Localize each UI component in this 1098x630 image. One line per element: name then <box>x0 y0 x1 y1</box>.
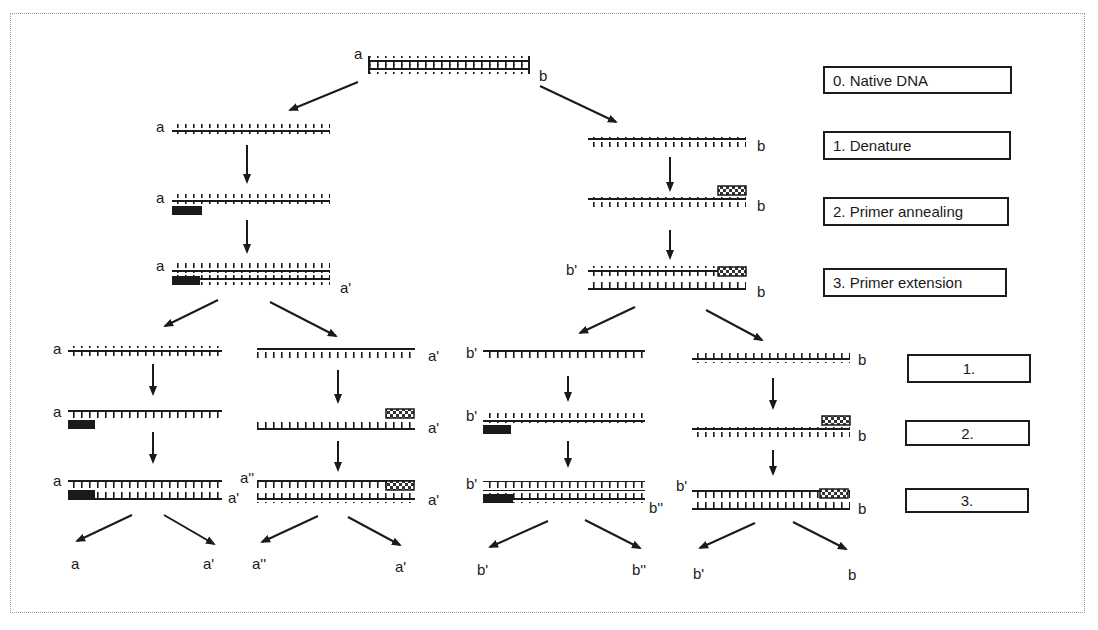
product-label: b <box>848 567 856 582</box>
strand-label: a' <box>428 420 439 435</box>
step-label: 0. Native DNA <box>833 72 928 89</box>
strand-label: a <box>156 190 164 205</box>
step-label: 2. <box>961 425 974 442</box>
strand-label: a <box>53 473 61 488</box>
primer-block <box>718 186 746 195</box>
column-3 <box>483 350 645 503</box>
strand-label: b <box>757 198 765 213</box>
strand-label: a' <box>340 280 351 295</box>
step-box-primer-annealing: 2. Primer annealing <box>823 197 1009 226</box>
column-1 <box>68 346 222 500</box>
strand-label: b' <box>466 345 477 360</box>
step-box-primer-extension: 3. Primer extension <box>823 268 1007 297</box>
arrow-icon <box>540 86 616 122</box>
strand-label: b' <box>566 262 577 277</box>
step-box-denature: 1. Denature <box>823 131 1011 160</box>
strand-label: b <box>539 68 547 83</box>
product-label: a' <box>203 556 214 571</box>
strand-label: a' <box>228 490 239 505</box>
strand-label: b' <box>676 478 687 493</box>
step-label: 3. <box>961 492 974 509</box>
arrow-icon <box>290 82 358 110</box>
step-label: 3. Primer extension <box>833 274 962 291</box>
strand-label: a' <box>428 492 439 507</box>
step-label: 1. Denature <box>833 137 911 154</box>
strand-label: a' <box>428 348 439 363</box>
column-4 <box>692 353 850 511</box>
column-2 <box>257 348 415 503</box>
step-label: 2. Primer annealing <box>833 203 963 220</box>
product-label: b'' <box>632 562 646 577</box>
product-label: a <box>71 556 79 571</box>
strand-label: b <box>757 138 765 153</box>
strand-label: a <box>156 258 164 273</box>
strand-label: a <box>53 341 61 356</box>
strand-label: b <box>858 352 866 367</box>
strand-label: b'' <box>649 500 663 515</box>
strand-label: b <box>757 284 765 299</box>
product-label: b' <box>477 562 488 577</box>
strand-label: a'' <box>240 470 254 485</box>
strand-label: a <box>156 119 164 134</box>
right-branch <box>588 137 746 292</box>
step-box-native-dna: 0. Native DNA <box>823 66 1012 94</box>
pcr-diagram <box>0 0 1098 630</box>
step-label: 1. <box>963 360 976 377</box>
native-dna <box>368 56 530 74</box>
strand-label: a <box>354 46 362 61</box>
left-branch <box>172 124 330 285</box>
step-box-cycle2-extension: 3. <box>905 488 1029 513</box>
product-label: b' <box>693 566 704 581</box>
product-label: a' <box>395 559 406 574</box>
strand-label: a <box>53 404 61 419</box>
product-label: a'' <box>252 556 266 571</box>
strand-label: b' <box>466 476 477 491</box>
strand-label: b <box>858 428 866 443</box>
strand-label: b' <box>466 408 477 423</box>
primer-block <box>172 206 202 215</box>
strand-label: b <box>858 501 866 516</box>
step-box-cycle2-denature: 1. <box>907 354 1031 383</box>
step-box-cycle2-annealing: 2. <box>905 420 1030 446</box>
